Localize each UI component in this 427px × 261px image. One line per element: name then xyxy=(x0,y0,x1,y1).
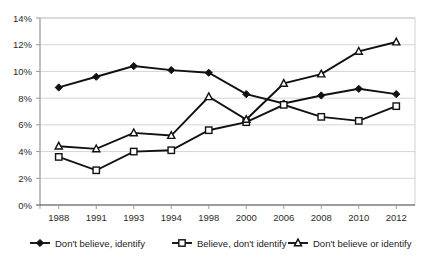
marker-open-square xyxy=(393,103,399,109)
series-layer xyxy=(55,38,400,173)
y-axis-tick-label: 12% xyxy=(13,39,33,50)
y-axis-tick-label: 2% xyxy=(18,173,32,184)
grid-layer xyxy=(40,18,415,178)
y-axis-tick-label: 4% xyxy=(18,146,32,157)
marker-open-square xyxy=(56,154,62,160)
series-3 xyxy=(55,38,400,152)
x-axis-tick-label: 1991 xyxy=(86,212,107,223)
y-axis-tick-label: 8% xyxy=(18,93,32,104)
y-axis-tick-label: 6% xyxy=(18,119,32,130)
marker-open-triangle xyxy=(130,129,137,136)
line-chart: 0%2%4%6%8%10%12%14% 19881991199319941998… xyxy=(0,0,427,261)
legend-item-label: Believe, don't identify xyxy=(197,238,287,249)
ytick-label-layer: 0%2%4%6%8%10%12%14% xyxy=(13,13,33,211)
x-axis-tick-label: 1988 xyxy=(48,212,69,223)
y-axis-tick-label: 10% xyxy=(13,66,33,77)
x-axis-tick-label: 1998 xyxy=(198,212,219,223)
x-axis-tick-label: 1994 xyxy=(161,212,182,223)
marker-filled-diamond xyxy=(168,66,175,73)
marker-filled-diamond xyxy=(130,62,137,69)
legend-item-2: Believe, don't identify xyxy=(172,238,287,249)
legend-item-label: Don't believe or identify xyxy=(313,238,412,249)
chart-canvas: 0%2%4%6%8%10%12%14% 19881991199319941998… xyxy=(0,0,427,261)
marker-open-triangle xyxy=(393,38,400,45)
marker-filled-diamond xyxy=(55,84,62,91)
x-axis-tick-label: 1993 xyxy=(123,212,144,223)
xtick-label-layer: 1988199119931994199820002006200820102012 xyxy=(48,212,407,223)
marker-open-triangle xyxy=(294,239,301,246)
legend-item-1: Don't believe, identify xyxy=(30,238,145,249)
marker-open-triangle xyxy=(355,47,362,54)
x-axis-tick-label: 2010 xyxy=(348,212,369,223)
y-axis-tick-label: 14% xyxy=(13,13,33,24)
x-axis-tick-label: 2006 xyxy=(273,212,294,223)
marker-open-square xyxy=(206,127,212,133)
x-axis-tick-label: 2008 xyxy=(311,212,332,223)
y-axis-tick-label: 0% xyxy=(18,200,32,211)
marker-filled-diamond xyxy=(36,239,43,246)
marker-filled-diamond xyxy=(355,85,362,92)
marker-open-square xyxy=(93,167,99,173)
marker-open-square xyxy=(281,102,287,108)
marker-filled-diamond xyxy=(93,73,100,80)
marker-open-triangle xyxy=(205,93,212,100)
chart-legend: Don't believe, identifyBelieve, don't id… xyxy=(30,238,412,249)
axis-layer xyxy=(36,18,415,209)
series-line-path xyxy=(59,42,397,149)
series-2 xyxy=(56,102,400,174)
x-axis-tick-label: 2012 xyxy=(386,212,407,223)
marker-open-square xyxy=(318,114,324,120)
marker-open-square xyxy=(131,148,137,154)
marker-open-triangle xyxy=(93,145,100,152)
series-line-path xyxy=(59,105,397,170)
marker-open-square xyxy=(168,147,174,153)
marker-open-triangle xyxy=(280,80,287,87)
legend-item-3: Don't believe or identify xyxy=(288,238,412,249)
marker-open-square xyxy=(356,118,362,124)
legend-item-label: Don't believe, identify xyxy=(55,238,145,249)
marker-open-square xyxy=(179,240,185,246)
marker-filled-diamond xyxy=(393,91,400,98)
marker-open-triangle xyxy=(55,142,62,149)
x-axis-tick-label: 2000 xyxy=(236,212,257,223)
series-1 xyxy=(55,62,400,107)
